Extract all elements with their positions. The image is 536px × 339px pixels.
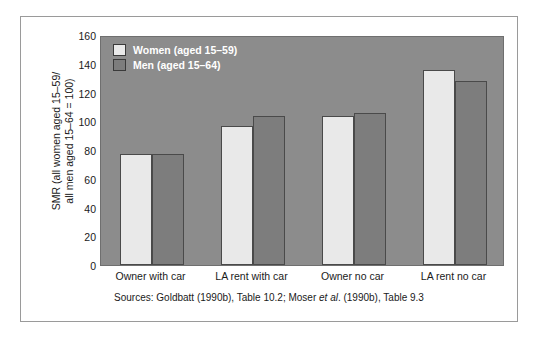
bar-women xyxy=(120,154,152,265)
bar-men xyxy=(354,113,386,265)
y-axis-tick-60: 60 xyxy=(62,174,96,186)
plot-area: Women (aged 15–59) Men (aged 15–64) xyxy=(100,36,504,266)
x-axis-tick-label: LA rent no car xyxy=(421,270,486,282)
y-axis-tick-0: 0 xyxy=(62,260,96,272)
y-axis-tick-120: 120 xyxy=(62,88,96,100)
x-axis-tick-label: LA rent with car xyxy=(215,270,287,282)
figure: SMR (all women aged 15–59/ all men aged … xyxy=(0,0,536,339)
x-axis-tick-label: Owner with car xyxy=(115,270,185,282)
y-axis-tick-80: 80 xyxy=(62,145,96,157)
bar-men xyxy=(253,116,285,266)
y-axis-tick-160: 160 xyxy=(62,30,96,42)
x-axis-category-labels: Owner with carLA rent with carOwner no c… xyxy=(100,270,504,286)
source-note: Sources: Goldbatt (1990b), Table 10.2; M… xyxy=(20,292,518,303)
legend-label-men: Men (aged 15–64) xyxy=(133,59,221,71)
bar-group xyxy=(423,37,487,265)
y-axis-tick-140: 140 xyxy=(62,59,96,71)
bar-group xyxy=(322,37,386,265)
legend-label-women: Women (aged 15–59) xyxy=(133,44,237,56)
source-suffix: . (1990b), Table 9.3 xyxy=(338,292,424,303)
bar-men xyxy=(152,154,184,265)
legend-swatch-women-icon xyxy=(113,44,126,56)
bar-women xyxy=(322,116,354,266)
y-axis-tick-40: 40 xyxy=(62,203,96,215)
bar-women xyxy=(221,126,253,265)
y-axis-tick-labels: 020406080100120140160 xyxy=(62,30,96,266)
source-prefix: Sources: Goldbatt (1990b), Table 10.2; M… xyxy=(114,292,319,303)
bar-women xyxy=(423,70,455,266)
legend-item-men: Men (aged 15–64) xyxy=(113,59,237,71)
legend-item-women: Women (aged 15–59) xyxy=(113,44,237,56)
legend-swatch-men-icon xyxy=(113,59,126,71)
x-axis-tick-label: Owner no car xyxy=(321,270,384,282)
legend: Women (aged 15–59) Men (aged 15–64) xyxy=(113,44,237,74)
y-axis-tick-100: 100 xyxy=(62,116,96,128)
y-axis-tick-20: 20 xyxy=(62,231,96,243)
bar-men xyxy=(455,81,487,265)
source-italic: et al xyxy=(319,292,338,303)
